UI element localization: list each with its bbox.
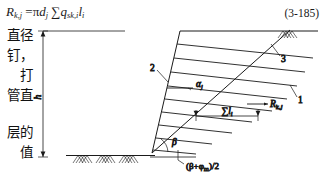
- callout-3-label: 3: [281, 54, 286, 64]
- soil-nail: [159, 125, 232, 133]
- toe-ground-line: [66, 156, 155, 164]
- soil-nail: [153, 150, 196, 154]
- crest-ground-line: [180, 31, 318, 38]
- alpha-label: αj: [196, 79, 203, 90]
- height-dimension: [38, 31, 48, 157]
- soil-nail-wall-figure: h: [0, 0, 324, 174]
- slope-face-line: [152, 31, 180, 153]
- force-label: Rk,j: [269, 99, 283, 110]
- beta-label: β: [171, 137, 177, 147]
- soil-nail: [156, 138, 212, 144]
- callout-1-label: 1: [298, 95, 303, 105]
- beta-angle-marker: [161, 139, 168, 152]
- soil-nail: [171, 72, 297, 86]
- soil-nail: [177, 44, 313, 58]
- soil-nail-group: [153, 44, 313, 154]
- soil-nail: [162, 112, 252, 122]
- height-label: h: [33, 94, 43, 99]
- alpha-angle-marker: [167, 88, 193, 90]
- slip-angle-label: (β+φm)/2: [186, 161, 219, 172]
- callout-2-label: 2: [150, 63, 155, 73]
- sum-l-label: ∑li: [221, 106, 232, 117]
- soil-nail: [165, 99, 272, 111]
- callout-2-leader: [157, 70, 168, 82]
- document-page: Rk,j =πdj ∑qsk,ili (3-185) 直径 钉， 打 管直 层的…: [0, 0, 324, 174]
- callout-1-leader: [290, 85, 297, 97]
